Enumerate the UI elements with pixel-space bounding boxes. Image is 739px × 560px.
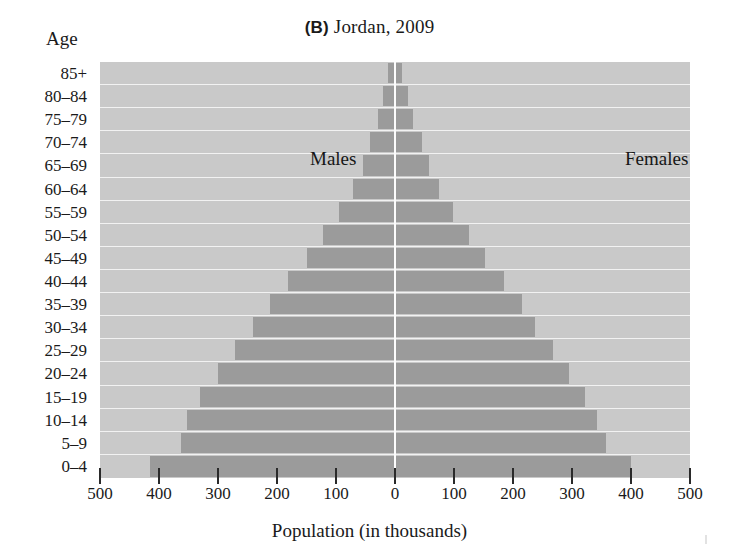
bar-male — [218, 363, 395, 383]
bar-female — [395, 179, 439, 199]
bar-male — [270, 294, 395, 314]
x-axis-tick-mark — [689, 468, 691, 484]
bar-male — [353, 179, 395, 199]
y-axis-tick-label: 60–64 — [0, 178, 94, 201]
y-axis-tick-label: 80–84 — [0, 85, 94, 108]
bar-female — [395, 294, 522, 314]
x-axis-tick-label: 0 — [391, 484, 400, 504]
x-axis-tick-mark — [453, 468, 455, 484]
x-axis-tick-label: 400 — [146, 484, 172, 504]
bar-female — [395, 433, 606, 453]
bar-male — [150, 456, 395, 477]
y-axis-tick-label: 50–54 — [0, 224, 94, 247]
bar-female — [395, 132, 422, 152]
y-axis-tick-label: 85+ — [0, 62, 94, 85]
y-axis-tick-label: 25–29 — [0, 339, 94, 362]
bar-male — [363, 155, 395, 175]
y-axis-tick-label: 0–4 — [0, 455, 94, 478]
bar-male — [181, 433, 395, 453]
bar-female — [395, 63, 402, 83]
bar-female — [395, 202, 453, 222]
x-axis-tick-label: 200 — [264, 484, 290, 504]
bar-female — [395, 225, 469, 245]
bar-female — [395, 109, 413, 129]
y-axis-tick-label: 35–39 — [0, 293, 94, 316]
bar-male — [323, 225, 395, 245]
x-axis-tick-mark — [276, 468, 278, 484]
y-axis-tick-label: 40–44 — [0, 270, 94, 293]
plot-area: Males Females — [100, 62, 690, 478]
x-axis-tick-labels: 5004003002001000100200300400500 — [100, 484, 690, 510]
series-label-males: Males — [310, 148, 356, 170]
x-axis-tick-mark — [99, 468, 101, 484]
print-speck — [705, 535, 707, 544]
bar-male — [378, 109, 395, 129]
age-axis-caption: Age — [46, 28, 78, 50]
y-axis-tick-label: 15–19 — [0, 386, 94, 409]
series-label-females: Females — [625, 148, 688, 170]
y-axis-tick-label: 20–24 — [0, 362, 94, 385]
bar-female — [395, 248, 485, 268]
chart-title: (B) Jordan, 2009 — [0, 16, 739, 38]
center-axis-line — [394, 62, 396, 478]
bar-female — [395, 410, 597, 430]
x-axis-tick-label: 300 — [559, 484, 585, 504]
y-axis-tick-label: 5–9 — [0, 432, 94, 455]
x-axis-tick-label: 100 — [441, 484, 467, 504]
y-axis-tick-labels: 85+80–8475–7970–7465–6960–6455–5950–5445… — [0, 62, 94, 478]
y-axis-tick-label: 70–74 — [0, 131, 94, 154]
bar-female — [395, 86, 408, 106]
bar-male — [288, 271, 395, 291]
bar-male — [307, 248, 396, 268]
x-axis-tick-mark — [571, 468, 573, 484]
panel-letter: (B) — [305, 18, 329, 37]
x-axis-tick-label: 100 — [323, 484, 349, 504]
bar-female — [395, 271, 504, 291]
x-axis-tick-mark — [158, 468, 160, 484]
bar-male — [339, 202, 395, 222]
population-pyramid-figure: (B) Jordan, 2009 Age 85+80–8475–7970–746… — [0, 0, 739, 560]
bar-male — [235, 340, 395, 360]
bar-male — [370, 132, 395, 152]
bar-female — [395, 155, 429, 175]
bar-male — [187, 410, 395, 430]
x-axis-tick-label: 500 — [677, 484, 703, 504]
y-axis-tick-label: 10–14 — [0, 409, 94, 432]
x-axis-tick-label: 500 — [87, 484, 113, 504]
y-axis-tick-label: 65–69 — [0, 154, 94, 177]
bar-male — [200, 387, 395, 407]
bar-female — [395, 317, 535, 337]
x-axis-tick-label: 300 — [205, 484, 231, 504]
bar-female — [395, 387, 585, 407]
x-axis-tick-mark — [512, 468, 514, 484]
x-axis-tick-mark — [630, 468, 632, 484]
y-axis-tick-label: 30–34 — [0, 316, 94, 339]
y-axis-tick-label: 45–49 — [0, 247, 94, 270]
x-axis-tick-mark — [217, 468, 219, 484]
x-axis-title: Population (in thousands) — [0, 520, 739, 542]
x-axis-tick-label: 200 — [500, 484, 526, 504]
x-axis-tick-label: 400 — [618, 484, 644, 504]
bar-female — [395, 363, 569, 383]
bar-male — [253, 317, 395, 337]
x-axis-tick-mark — [394, 468, 396, 484]
y-axis-tick-label: 75–79 — [0, 108, 94, 131]
x-axis-tick-mark — [335, 468, 337, 484]
y-axis-tick-label: 55–59 — [0, 201, 94, 224]
chart-title-text: Jordan, 2009 — [334, 16, 435, 37]
bar-female — [395, 340, 553, 360]
